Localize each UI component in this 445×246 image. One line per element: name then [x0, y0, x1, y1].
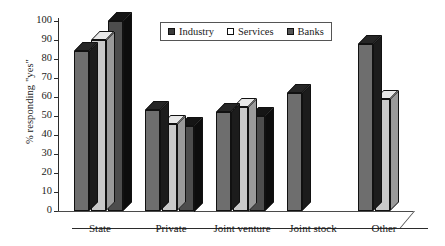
y-tick-label: 100 [28, 14, 52, 25]
x-axis-label-joint-stock: Joint stock [289, 222, 336, 234]
bar-industry-state [74, 51, 89, 211]
y-tick-label: 80 [28, 52, 52, 63]
y-tick-mark [54, 116, 59, 117]
y-tick-label: 60 [28, 90, 52, 101]
y-tick-mark [54, 59, 59, 60]
bar-front-face [358, 44, 373, 211]
bar-industry-joint-stock [287, 93, 302, 211]
bar-side-face [160, 101, 169, 211]
bar-front-face [145, 110, 160, 211]
bar-industry-joint-venture [216, 112, 231, 211]
y-tick-mark [54, 173, 59, 174]
plot-area: 0102030405060708090100 [58, 18, 430, 214]
x-axis-label-state: State [89, 222, 111, 234]
y-tick-label: 50 [28, 109, 52, 120]
bar-side-face [194, 117, 203, 212]
chart-figure: % responding "yes" 010203040506070809010… [0, 0, 445, 246]
y-tick-mark [54, 97, 59, 98]
y-tick-label: 40 [28, 128, 52, 139]
chart-legend: IndustryServicesBanks [160, 22, 332, 41]
y-tick-mark [54, 21, 59, 22]
y-tick-label: 10 [28, 185, 52, 196]
bar-front-face [287, 93, 302, 211]
bar-industry-other [358, 44, 373, 211]
y-tick-label: 70 [28, 71, 52, 82]
bar-side-face [106, 31, 115, 211]
bar-side-face [177, 115, 186, 211]
y-tick-mark [54, 135, 59, 136]
x-axis-label-other: Other [371, 222, 396, 234]
y-tick-label: 30 [28, 147, 52, 158]
legend-item-label: Services [238, 26, 274, 37]
legend-item-label: Industry [179, 26, 214, 37]
floor-plane-top [57, 211, 414, 212]
bar-side-face [265, 107, 274, 211]
legend-item-banks: Banks [287, 26, 324, 37]
floor-plane-right [400, 211, 415, 228]
bar-front-face [74, 51, 89, 211]
bar-side-face [231, 103, 240, 211]
y-axis-line [58, 18, 59, 211]
bar-side-face [123, 12, 132, 211]
bar-side-face [248, 98, 257, 212]
bar-front-face [216, 112, 231, 211]
bar-side-face [390, 90, 399, 211]
legend-swatch-services [227, 28, 234, 35]
legend-swatch-industry [168, 28, 175, 35]
y-tick-label: 0 [28, 204, 52, 215]
bar-industry-private [145, 110, 160, 211]
y-tick-mark [54, 40, 59, 41]
bar-side-face [302, 84, 311, 211]
legend-swatch-banks [287, 28, 294, 35]
x-axis-label-joint-venture: Joint venture [213, 222, 270, 234]
y-tick-mark [54, 192, 59, 193]
bar-side-face [373, 35, 382, 211]
y-tick-label: 20 [28, 166, 52, 177]
y-tick-mark [54, 154, 59, 155]
y-tick-label: 90 [28, 33, 52, 44]
y-tick-mark [54, 78, 59, 79]
x-axis-label-private: Private [155, 222, 186, 234]
legend-item-services: Services [227, 26, 274, 37]
bar-side-face [89, 42, 98, 211]
legend-item-industry: Industry [168, 26, 214, 37]
legend-item-label: Banks [298, 26, 324, 37]
